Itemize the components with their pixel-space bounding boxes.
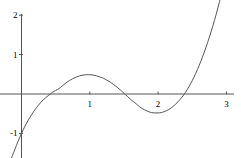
axes-group (0, 14, 234, 158)
plot-canvas (0, 0, 241, 158)
series-group (11, 0, 231, 158)
y-tick-label: -1 (10, 129, 18, 138)
x-tick-label: 2 (156, 100, 161, 109)
x-tick-label: 3 (224, 100, 229, 109)
y-tick-label: 1 (13, 50, 18, 59)
polynomial-curve (11, 0, 231, 158)
y-tick-label: 2 (13, 11, 18, 20)
plot-figure: 123-112 (0, 0, 241, 158)
x-tick-label: 1 (88, 100, 93, 109)
